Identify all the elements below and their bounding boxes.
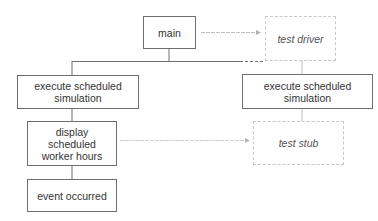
node-label-line: worker hours [42, 150, 103, 162]
node-test-driver: test driver [265, 16, 336, 61]
node-label: event occurred [37, 190, 106, 202]
node-test-stub: test stub [253, 121, 344, 165]
arrowhead-icon [256, 30, 261, 35]
node-execute-scheduled-simulation-right: execute scheduled simulation [242, 74, 373, 109]
node-label: test stub [279, 137, 319, 149]
node-label-line: execute scheduled [264, 80, 352, 92]
node-label-line: display [56, 126, 89, 138]
node-display-scheduled-worker-hours: display scheduled worker hours [27, 121, 117, 166]
arrowhead-icon [245, 138, 250, 143]
node-execute-scheduled-simulation-left: execute scheduled simulation [17, 75, 139, 109]
node-event-occurred: event occurred [27, 179, 117, 212]
node-label-line: simulation [284, 92, 331, 104]
node-label: test driver [277, 33, 323, 45]
node-label-line: scheduled [48, 138, 96, 150]
node-label: main [158, 27, 181, 39]
node-label-line: execute scheduled [34, 80, 122, 92]
node-label-line: simulation [54, 92, 101, 104]
node-main: main [143, 16, 196, 49]
